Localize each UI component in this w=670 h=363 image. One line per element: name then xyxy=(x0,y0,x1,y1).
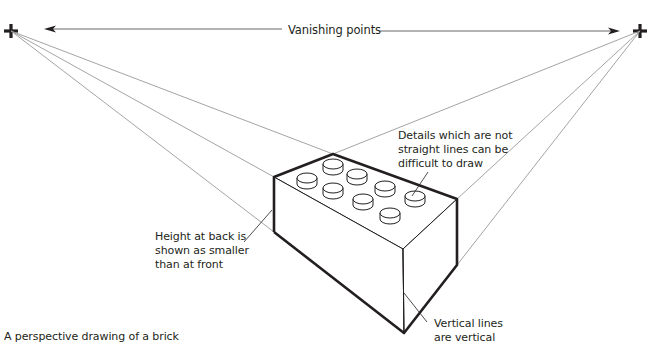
stud xyxy=(323,159,343,175)
arrow-right xyxy=(380,28,620,35)
stud xyxy=(380,208,400,224)
vertical-annotation: Vertical lines are vertical xyxy=(434,317,503,345)
stud xyxy=(375,181,395,197)
figure-caption: A perspective drawing of a brick xyxy=(4,330,179,344)
arrow-left xyxy=(44,26,282,33)
stud xyxy=(323,183,343,199)
stud xyxy=(347,169,367,185)
stud xyxy=(405,191,425,207)
stud xyxy=(297,173,317,189)
details-annotation: Details which are not straight lines can… xyxy=(398,129,518,171)
perspective-drawing xyxy=(0,0,670,363)
stud xyxy=(353,194,373,210)
vanishing-points-label: Vanishing points xyxy=(288,23,381,37)
height-annotation: Height at back is shown as smaller than … xyxy=(155,230,249,272)
